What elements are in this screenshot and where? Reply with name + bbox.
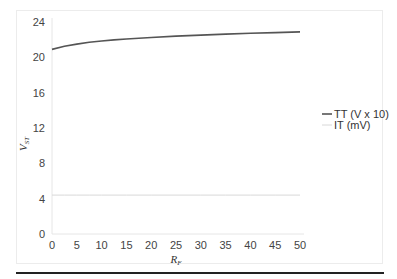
x-tick-label: 50 [294, 239, 306, 251]
x-tick-label: 5 [74, 239, 80, 251]
x-tick-label: 35 [219, 239, 231, 251]
y-tick-label: 12 [33, 122, 45, 134]
x-tick-label: 25 [170, 239, 182, 251]
x-tick-label: 20 [145, 239, 157, 251]
series-tt-line [52, 32, 300, 50]
y-tick-label: 20 [33, 51, 45, 63]
x-tick-label: 30 [195, 239, 207, 251]
bottom-rule [16, 272, 384, 274]
x-axis-label: RF [169, 253, 182, 267]
line-chart: 0481216202405101520253035404550RFVSTTT (… [0, 0, 397, 279]
y-tick-label: 8 [39, 157, 45, 169]
x-tick-label: 0 [49, 239, 55, 251]
y-axis-label: VST [17, 136, 31, 151]
legend-entry: IT (mV) [334, 119, 370, 131]
x-tick-label: 10 [95, 239, 107, 251]
y-tick-label: 24 [33, 16, 45, 28]
y-tick-label: 0 [39, 228, 45, 240]
x-tick-label: 40 [244, 239, 256, 251]
y-tick-label: 16 [33, 87, 45, 99]
x-tick-label: 45 [269, 239, 281, 251]
x-tick-label: 15 [120, 239, 132, 251]
y-tick-label: 4 [39, 193, 45, 205]
